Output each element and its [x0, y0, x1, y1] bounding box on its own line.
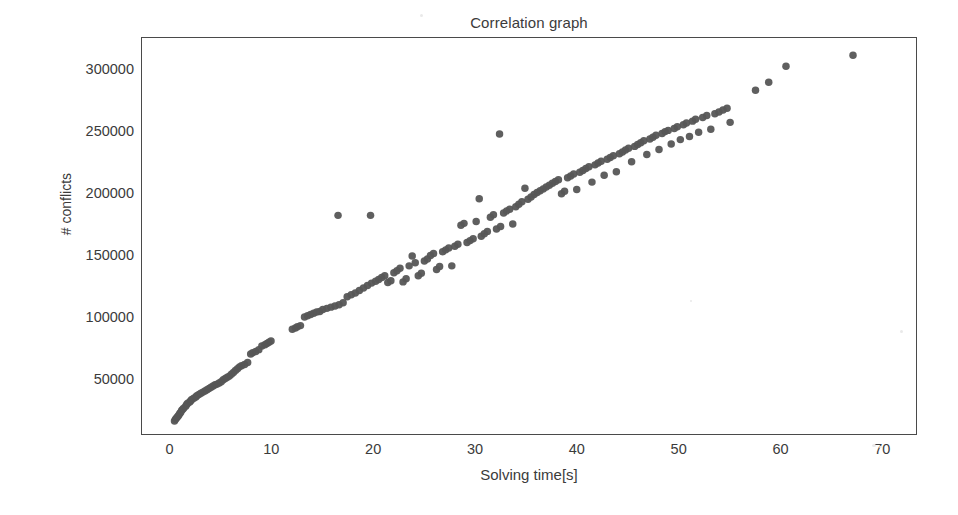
- scatter-point: [686, 133, 693, 140]
- scatter-point: [765, 79, 772, 86]
- scatter-point: [490, 211, 497, 218]
- scan-speckle: [879, 446, 882, 448]
- scan-speckle: [900, 330, 903, 333]
- figure-canvas: Correlation graph 5000010000015000020000…: [0, 0, 958, 515]
- scatter-point: [752, 87, 759, 94]
- scatter-point: [436, 263, 443, 270]
- y-axis-tick-label: 100000: [44, 309, 134, 325]
- scatter-point: [628, 158, 635, 165]
- y-axis-tick-labels: 50000100000150000200000250000300000: [38, 0, 134, 515]
- scatter-point: [334, 212, 341, 219]
- x-axis-tick-label: 40: [547, 441, 607, 457]
- scatter-point: [667, 140, 674, 147]
- scatter-point: [387, 277, 394, 284]
- scatter-point: [726, 119, 733, 126]
- x-axis-tick-label: 10: [241, 441, 301, 457]
- scatter-point: [484, 228, 491, 235]
- x-axis-tick-label: 50: [649, 441, 709, 457]
- scatter-point: [454, 241, 461, 248]
- scatter-point: [613, 168, 620, 175]
- y-axis-tick-label: 50000: [44, 371, 134, 387]
- x-axis-title: Solving time[s]: [141, 466, 917, 483]
- scatter-point: [448, 262, 455, 269]
- scatter-point: [695, 128, 702, 135]
- scatter-point: [509, 220, 516, 227]
- plot-area: [141, 37, 917, 435]
- scatter-point: [723, 104, 730, 111]
- scatter-point: [703, 112, 710, 119]
- scatter-point: [475, 195, 482, 202]
- scatter-point: [643, 151, 650, 158]
- scatter-point: [396, 265, 403, 272]
- scatter-point: [469, 235, 476, 242]
- scatter-point: [367, 212, 374, 219]
- scatter-point: [402, 275, 409, 282]
- scatter-point: [381, 272, 388, 279]
- scatter-point: [849, 52, 856, 59]
- scatter-point: [497, 223, 504, 230]
- scan-speckle: [872, 444, 876, 447]
- y-axis-title: # conflicts: [58, 124, 74, 284]
- scatter-point: [297, 322, 304, 329]
- scatter-point: [418, 270, 425, 277]
- scatter-point: [600, 172, 607, 179]
- page-title: Correlation graph: [141, 14, 917, 31]
- scan-speckle: [690, 300, 692, 302]
- x-axis-tick-label: 30: [445, 441, 505, 457]
- scatter-point: [573, 186, 580, 193]
- scatter-point: [408, 252, 415, 259]
- scatter-point: [267, 337, 274, 344]
- scatter-point: [692, 116, 699, 123]
- x-axis-tick-label: 70: [852, 441, 912, 457]
- scatter-point: [555, 176, 562, 183]
- scatter-point: [707, 125, 714, 132]
- scatter-points-layer: [142, 38, 916, 434]
- scatter-point: [588, 178, 595, 185]
- scatter-point: [561, 188, 568, 195]
- scatter-point: [430, 250, 437, 257]
- scatter-point: [782, 63, 789, 70]
- scatter-point: [496, 130, 503, 137]
- scatter-point: [339, 299, 346, 306]
- scatter-point: [677, 136, 684, 143]
- scatter-point: [244, 359, 251, 366]
- x-axis-tick-label: 20: [343, 441, 403, 457]
- x-axis-tick-labels: 010203040506070: [0, 441, 958, 465]
- scatter-point: [411, 259, 418, 266]
- scan-speckle: [420, 14, 423, 17]
- y-axis-tick-label: 300000: [44, 61, 134, 77]
- scatter-point: [655, 146, 662, 153]
- scatter-point: [460, 220, 467, 227]
- scatter-point: [472, 218, 479, 225]
- scatter-point: [521, 185, 528, 192]
- x-axis-tick-label: 0: [140, 441, 200, 457]
- x-axis-tick-label: 60: [751, 441, 811, 457]
